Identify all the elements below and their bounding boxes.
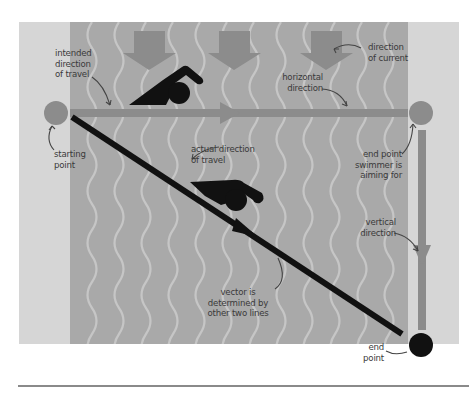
label-line: intended <box>55 48 92 59</box>
label-line: direction <box>55 59 92 70</box>
label-line: determined by <box>198 298 278 309</box>
label-line: end point <box>344 149 402 160</box>
end-point <box>409 333 433 357</box>
start-point <box>44 101 68 125</box>
divider-line <box>18 385 469 387</box>
label-line: direction <box>368 42 408 53</box>
label-end-point: end point <box>352 342 384 363</box>
label-line: vector is <box>198 287 278 298</box>
label-line: point <box>54 160 86 171</box>
label-direction-of-current: direction of current <box>368 42 408 63</box>
label-line: of travel <box>191 155 255 166</box>
label-aim-end-point: end point swimmer is aiming for <box>344 149 402 181</box>
label-line: horizontal <box>270 72 323 83</box>
label-line: of current <box>368 53 408 64</box>
label-line: end <box>352 342 384 353</box>
label-line: direction <box>270 83 323 94</box>
label-line: of travel <box>55 69 92 80</box>
label-line: starting <box>54 149 86 160</box>
label-intended-direction: intended direction of travel <box>55 48 92 80</box>
label-line: other two lines <box>198 308 278 319</box>
label-vector-determined: vector is determined by other two lines <box>198 287 278 319</box>
label-line: actual direction <box>191 144 255 155</box>
current-arrows <box>123 31 353 70</box>
label-line: vertical <box>350 217 396 228</box>
label-actual-direction: actual direction of travel <box>191 144 255 165</box>
aim-point <box>409 101 433 125</box>
label-horizontal-direction: horizontal direction <box>270 72 323 93</box>
label-line: direction <box>350 228 396 239</box>
label-line: point <box>352 353 384 364</box>
label-vertical-direction: vertical direction <box>350 217 396 238</box>
label-line: swimmer is <box>344 160 402 171</box>
label-starting-point: starting point <box>54 149 86 170</box>
label-line: aiming for <box>344 170 402 181</box>
